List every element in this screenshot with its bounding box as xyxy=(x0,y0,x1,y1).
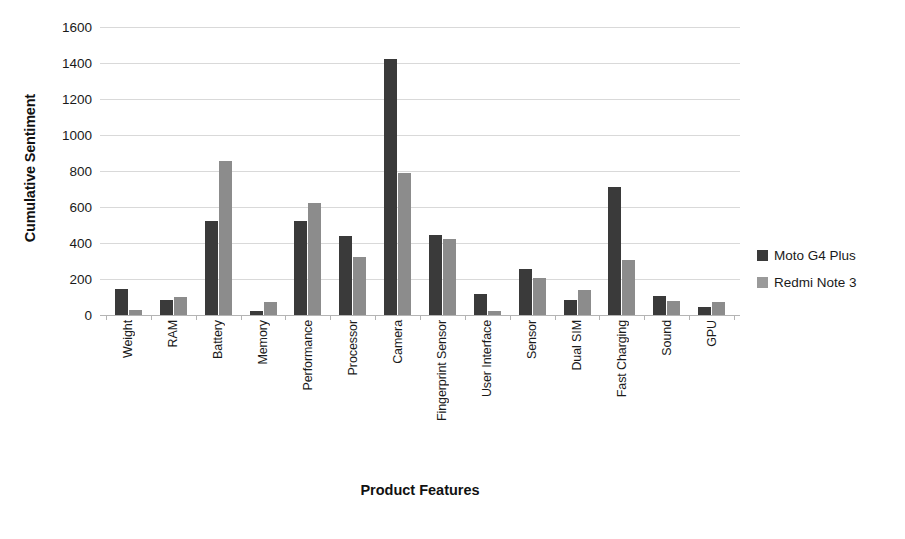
bar-chart-figure: Cumulative Sentiment 0200400600800100012… xyxy=(0,0,905,539)
bar xyxy=(384,59,397,315)
bar xyxy=(622,260,635,315)
bar xyxy=(429,235,442,315)
bar xyxy=(264,302,277,316)
bar xyxy=(578,290,591,315)
x-axis-category-label-text: GPU xyxy=(705,320,719,347)
bar-group xyxy=(689,27,734,315)
plot-area xyxy=(100,27,740,315)
x-axis-category-label: Weight xyxy=(106,320,151,460)
x-axis-category-label-text: Battery xyxy=(211,320,225,359)
bar-group xyxy=(555,27,600,315)
bar xyxy=(115,289,128,315)
bar xyxy=(205,221,218,316)
y-axis-tick-label: 200 xyxy=(69,272,92,287)
y-axis-tick-label: 1000 xyxy=(62,128,92,143)
bar-group xyxy=(151,27,196,315)
legend-item[interactable]: Moto G4 Plus xyxy=(757,248,857,263)
x-axis-category-label: Battery xyxy=(196,320,241,460)
y-axis-tick-label: 400 xyxy=(69,236,92,251)
bar-group xyxy=(196,27,241,315)
bar xyxy=(308,203,321,316)
chart-legend: Moto G4 PlusRedmi Note 3 xyxy=(757,248,857,290)
bar xyxy=(443,239,456,316)
legend-item-label: Redmi Note 3 xyxy=(774,275,857,290)
bar xyxy=(219,161,232,315)
x-axis-category-label-text: Sensor xyxy=(525,320,539,359)
bar-group xyxy=(510,27,555,315)
bar xyxy=(353,257,366,315)
x-axis-category-label-text: Memory xyxy=(256,320,270,365)
bar xyxy=(398,173,411,315)
bar-groups xyxy=(100,27,740,315)
x-axis-category-label: User Interface xyxy=(465,320,510,460)
x-axis-category-label: Sensor xyxy=(510,320,555,460)
x-axis-category-label: RAM xyxy=(151,320,196,460)
bar-group xyxy=(330,27,375,315)
x-axis-category-label-text: Fingerprint Sensor xyxy=(435,320,449,421)
bar-group xyxy=(644,27,689,315)
x-axis-category-label: Sound xyxy=(644,320,689,460)
x-axis-category-label-text: Processor xyxy=(346,320,360,375)
legend-item[interactable]: Redmi Note 3 xyxy=(757,275,857,290)
x-axis-category-label: Processor xyxy=(330,320,375,460)
bar xyxy=(533,278,546,315)
y-axis-tick-label: 1600 xyxy=(62,20,92,35)
x-axis-category-label: Memory xyxy=(241,320,286,460)
bar-group xyxy=(375,27,420,315)
x-axis-category-label: Performance xyxy=(285,320,330,460)
x-axis-category-label: Fast Charging xyxy=(599,320,644,460)
y-axis-tick-label: 800 xyxy=(69,164,92,179)
y-axis-tick-label: 600 xyxy=(69,200,92,215)
x-axis-category-label-text: Weight xyxy=(121,320,135,358)
bar xyxy=(608,187,621,315)
bar xyxy=(339,236,352,315)
x-axis-category-label: GPU xyxy=(689,320,734,460)
y-axis-tick-labels: 02004006008001000120014001600 xyxy=(28,27,92,315)
y-axis-tick-label: 1200 xyxy=(62,92,92,107)
y-axis-tick-label: 1400 xyxy=(62,56,92,71)
legend-color-swatch xyxy=(757,277,768,288)
x-axis-category-labels: WeightRAMBatteryMemoryPerformanceProcess… xyxy=(100,320,740,460)
bar-group xyxy=(106,27,151,315)
x-axis-category-label-text: Performance xyxy=(301,320,315,390)
legend-item-label: Moto G4 Plus xyxy=(774,248,856,263)
x-axis-category-label-text: Fast Charging xyxy=(615,320,629,397)
bar xyxy=(174,297,187,315)
legend-color-swatch xyxy=(757,250,768,261)
bar xyxy=(519,269,532,315)
x-axis-category-label-text: RAM xyxy=(166,320,180,347)
bar xyxy=(698,307,711,315)
x-axis-category-label-text: Sound xyxy=(660,320,674,356)
bar xyxy=(564,300,577,315)
bar xyxy=(474,294,487,315)
bar xyxy=(653,296,666,315)
x-axis-category-label-text: Camera xyxy=(391,320,405,364)
bar-group xyxy=(285,27,330,315)
bar-group xyxy=(599,27,644,315)
x-axis-title: Product Features xyxy=(100,482,740,498)
x-axis-category-label-text: Dual SIM xyxy=(570,320,584,371)
bar-group xyxy=(241,27,286,315)
x-axis-category-label-text: User Interface xyxy=(480,320,494,397)
x-axis-category-label: Camera xyxy=(375,320,420,460)
bar-group xyxy=(420,27,465,315)
y-axis-tick-label: 0 xyxy=(84,308,92,323)
bar-group xyxy=(465,27,510,315)
bar xyxy=(160,300,173,315)
bar xyxy=(712,302,725,315)
bar xyxy=(294,221,307,315)
x-axis-category-label: Fingerprint Sensor xyxy=(420,320,465,460)
bar xyxy=(667,301,680,315)
x-axis-category-label: Dual SIM xyxy=(555,320,600,460)
